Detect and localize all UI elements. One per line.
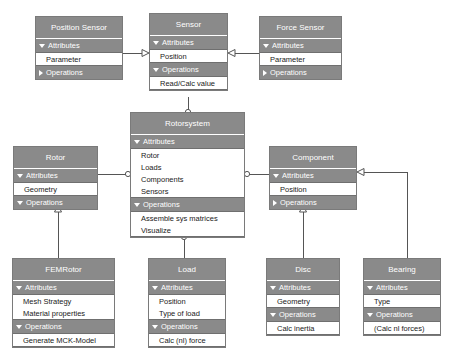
operations-label: Operations	[280, 198, 317, 207]
operations-list: Assemble sys matrices Visualize	[131, 211, 244, 237]
operations-list: (Calc nl forces)	[364, 321, 440, 335]
attributes-section-header[interactable]: Attributes	[14, 169, 97, 182]
arrowhead-sensor-right	[228, 50, 235, 57]
operations-label: Operations	[270, 68, 307, 77]
chevron-down-icon	[270, 286, 276, 290]
list-item[interactable]: Calc (nl) force	[149, 334, 225, 346]
attributes-section-header[interactable]: Attributes	[260, 39, 341, 52]
attributes-list: Geometry	[267, 294, 339, 308]
operations-section-header[interactable]: Operations	[14, 196, 97, 209]
chevron-down-icon	[367, 313, 373, 317]
operations-section-header[interactable]: Operations	[13, 320, 114, 333]
class-title: Position Sensor	[36, 17, 122, 39]
attributes-list: Mesh Strategy Material properties	[13, 294, 114, 320]
class-box-component[interactable]: Component Attributes Position Operations	[269, 146, 357, 210]
class-title: Load	[149, 259, 225, 281]
attributes-section-header[interactable]: Attributes	[36, 39, 122, 52]
attributes-section-header[interactable]: Attributes	[149, 281, 225, 294]
class-title: Force Sensor	[260, 17, 341, 39]
class-box-sensor[interactable]: Sensor Attributes Position Operations Re…	[149, 13, 228, 91]
class-title: Sensor	[150, 14, 227, 36]
class-diagram-canvas: Position Sensor Attributes Parameter Ope…	[0, 0, 452, 356]
list-item[interactable]: Read/Calc value	[150, 77, 227, 89]
operations-section-header[interactable]: Operations	[149, 320, 225, 333]
attributes-list: Parameter	[36, 52, 122, 66]
list-item[interactable]: (Calc nl forces)	[364, 322, 440, 334]
attributes-list: Position	[270, 182, 356, 196]
attributes-section-header[interactable]: Attributes	[270, 169, 356, 182]
class-box-femrotor[interactable]: FEMRotor Attributes Mesh Strategy Materi…	[12, 258, 115, 348]
operations-label: Operations	[376, 310, 413, 319]
list-item[interactable]: Type of load	[149, 307, 225, 319]
attributes-label: Attributes	[272, 41, 304, 50]
class-box-rotor[interactable]: Rotor Attributes Geometry Operations	[13, 146, 98, 210]
operations-label: Operations	[161, 322, 198, 331]
operations-label: Operations	[279, 310, 316, 319]
list-item[interactable]: Sensors	[131, 185, 244, 197]
list-item[interactable]: Type	[364, 295, 440, 307]
list-item[interactable]: Components	[131, 173, 244, 185]
list-item[interactable]: Position	[150, 50, 227, 62]
chevron-down-icon	[134, 140, 140, 144]
list-item[interactable]: Assemble sys matrices	[131, 212, 244, 224]
attributes-section-header[interactable]: Attributes	[131, 135, 244, 148]
chevron-down-icon	[367, 286, 373, 290]
operations-section-header[interactable]: Operations	[364, 308, 440, 321]
class-title: Bearing	[364, 259, 440, 281]
chevron-down-icon	[16, 286, 22, 290]
list-item[interactable]: Rotor	[131, 149, 244, 161]
list-item[interactable]: Geometry	[14, 183, 97, 195]
operations-label: Operations	[162, 65, 199, 74]
chevron-down-icon	[17, 174, 23, 178]
attributes-section-header[interactable]: Attributes	[267, 281, 339, 294]
class-box-bearing[interactable]: Bearing Attributes Type Operations (Calc…	[363, 258, 441, 336]
attributes-label: Attributes	[282, 171, 314, 180]
class-box-force-sensor[interactable]: Force Sensor Attributes Parameter Operat…	[259, 16, 342, 80]
class-title: Disc	[267, 259, 339, 281]
attributes-label: Attributes	[143, 137, 175, 146]
class-title: Rotor	[14, 147, 97, 169]
arrowhead-sensor-left	[142, 50, 149, 57]
class-box-disc[interactable]: Disc Attributes Geometry Operations Calc…	[266, 258, 340, 336]
attributes-label: Attributes	[48, 41, 80, 50]
list-item[interactable]: Position	[270, 183, 356, 195]
class-box-load[interactable]: Load Attributes Position Type of load Op…	[148, 258, 226, 348]
attributes-section-header[interactable]: Attributes	[13, 281, 114, 294]
operations-section-header[interactable]: Operations	[131, 198, 244, 211]
operations-section-header[interactable]: Operations	[150, 63, 227, 76]
attributes-label: Attributes	[376, 283, 408, 292]
operations-section-header[interactable]: Operations	[267, 308, 339, 321]
class-box-rotorsystem[interactable]: Rotorsystem Attributes Rotor Loads Compo…	[130, 112, 245, 238]
chevron-down-icon	[263, 44, 269, 48]
operations-section-header[interactable]: Operations	[36, 66, 122, 79]
list-item[interactable]: Generate MCK-Model	[13, 334, 114, 346]
connector-bearing-to-component	[361, 172, 407, 258]
attributes-list: Type	[364, 294, 440, 308]
operations-section-header[interactable]: Operations	[260, 66, 341, 79]
list-item[interactable]: Calc inertia	[267, 322, 339, 334]
list-item[interactable]: Parameter	[260, 53, 341, 65]
class-title: FEMRotor	[13, 259, 114, 281]
attributes-section-header[interactable]: Attributes	[150, 36, 227, 49]
attributes-section-header[interactable]: Attributes	[364, 281, 440, 294]
operations-label: Operations	[143, 200, 180, 209]
attributes-list: Position	[150, 49, 227, 63]
operations-section-header[interactable]: Operations	[270, 196, 356, 209]
class-box-position-sensor[interactable]: Position Sensor Attributes Parameter Ope…	[35, 16, 123, 80]
list-item[interactable]: Material properties	[13, 307, 114, 319]
list-item[interactable]: Mesh Strategy	[13, 295, 114, 307]
attributes-label: Attributes	[162, 38, 194, 47]
list-item[interactable]: Visualize	[131, 224, 244, 236]
operations-list: Generate MCK-Model	[13, 333, 114, 347]
chevron-down-icon	[17, 201, 23, 205]
operations-label: Operations	[25, 322, 62, 331]
operations-label: Operations	[26, 198, 63, 207]
operations-list: Read/Calc value	[150, 76, 227, 90]
chevron-down-icon	[270, 313, 276, 317]
list-item[interactable]: Parameter	[36, 53, 122, 65]
list-item[interactable]: Position	[149, 295, 225, 307]
list-item[interactable]: Loads	[131, 161, 244, 173]
chevron-down-icon	[273, 174, 279, 178]
chevron-down-icon	[16, 325, 22, 329]
list-item[interactable]: Geometry	[267, 295, 339, 307]
